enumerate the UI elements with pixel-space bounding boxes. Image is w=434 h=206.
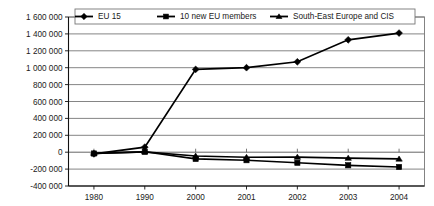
x-axis-tick-label: 2000 (187, 193, 206, 202)
y-axis-tick-label: -400 000 (30, 182, 63, 191)
chart-legend: EU 1510 new EU membersSouth-East Europe … (75, 9, 415, 24)
legend-entry-label: South-East Europe and CIS (293, 12, 395, 21)
x-axis-tick-label: 2001 (237, 193, 256, 202)
x-axis-tick-label: 1980 (85, 193, 104, 202)
data-point-marker (295, 160, 300, 165)
x-axis-tick-label: 2003 (339, 193, 358, 202)
y-axis-tick-label: 1 600 000 (26, 13, 63, 22)
chart-canvas: 1 600 0001 400 0001 200 0001 000 000800 … (0, 0, 434, 206)
y-axis-tick-label: 200 000 (33, 131, 63, 140)
y-axis-tick-label: 400 000 (33, 114, 63, 123)
y-axis-tick-label: 0 (58, 148, 63, 157)
y-axis-tick-label: -200 000 (30, 165, 63, 174)
legend-entry-label: 10 new EU members (180, 12, 256, 21)
x-axis-tick-label: 1990 (136, 193, 155, 202)
x-axis-tick-label: 2002 (288, 193, 307, 202)
chart-background (0, 0, 434, 206)
square-marker-icon (164, 14, 169, 19)
y-axis-tick-label: 1 200 000 (26, 47, 63, 56)
y-axis-tick-label: 800 000 (33, 81, 63, 90)
line-chart: 1 600 0001 400 0001 200 0001 000 000800 … (0, 0, 434, 206)
y-axis-tick-label: 600 000 (33, 98, 63, 107)
x-axis-tick-label: 2004 (390, 193, 409, 202)
data-point-marker (396, 164, 401, 169)
data-point-marker (346, 163, 351, 168)
y-axis-tick-label: 1 400 000 (26, 30, 63, 39)
legend-entry-label: EU 15 (98, 12, 121, 21)
y-axis-tick-label: 1 000 000 (26, 64, 63, 73)
